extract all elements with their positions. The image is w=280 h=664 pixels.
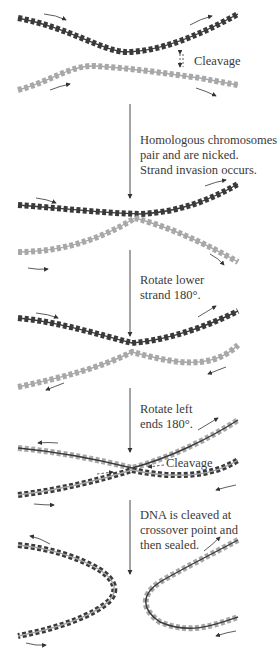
step-2-line-1: Rotate lower [140,273,204,288]
step-4-line-1: DNA is cleaved at [140,508,238,523]
direction-arrow-icon [50,84,70,90]
stage-5-strands [18,540,238,636]
stage-2-strands [18,184,238,262]
stage-3-strands [18,311,238,387]
step-2-caption: Rotate lower strand 180°. [140,273,204,303]
direction-arrow-icon [190,16,212,25]
direction-arrow-icon [44,14,66,20]
step-3-line-2: ends 180°. [140,417,193,432]
step-4-line-3: then sealed. [140,538,238,553]
cleavage-label-top: Cleavage [194,54,241,69]
step-1-line-2: pair and are nicked. [140,148,277,163]
step-4-caption: DNA is cleaved at crossover point and th… [140,508,238,553]
step-3-caption: Rotate left ends 180°. [140,402,193,432]
direction-arrow-icon [196,88,216,96]
stage-1-arrows [44,14,216,96]
stage-1-strands [18,14,238,90]
step-4-line-2: crossover point and [140,523,238,538]
step-1-line-3: Strand invasion occurs. [140,163,277,178]
recombination-diagram [0,0,280,664]
dark-dna-strand [18,14,238,52]
step-1-caption: Homologous chromosomes pair and are nick… [140,133,277,178]
cleavage-dashed-arrow-icon [148,465,164,467]
step-1-line-1: Homologous chromosomes [140,133,277,148]
cleavage-label-mid: Cleavage [166,456,213,471]
step-2-line-2: strand 180°. [140,288,204,303]
cleavage-dashed-arrow-icon [97,472,113,474]
step-3-line-1: Rotate left [140,402,193,417]
